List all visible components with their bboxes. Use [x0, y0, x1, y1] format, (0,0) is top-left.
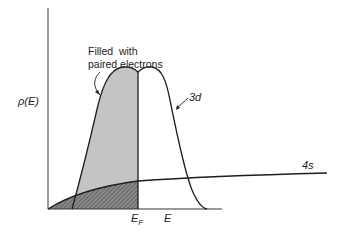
density-of-states-diagram: ρ(E) Filled with paired electrons 3d 4s … [0, 0, 346, 233]
x-axis-label: E [164, 212, 172, 224]
annotation-line1: Filled with [88, 45, 138, 57]
band-3d-label: 3d [189, 91, 202, 103]
y-axis-label: ρ(E) [17, 95, 39, 107]
fermi-energy-subscript: F [138, 218, 144, 227]
band-4s-label: 4s [302, 159, 314, 171]
arrow-head-icon [95, 90, 100, 95]
fermi-energy-label: EF [131, 212, 144, 227]
annotation-line2: paired electrons [88, 58, 163, 70]
band-3d-leader [177, 98, 188, 108]
